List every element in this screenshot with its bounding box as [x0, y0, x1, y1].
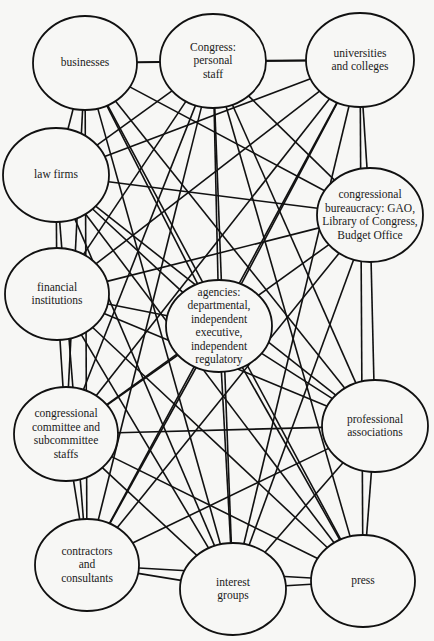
node-universities	[306, 13, 414, 107]
nodes-layer	[0, 0, 434, 641]
node-businesses	[33, 16, 137, 110]
network-diagram: businessesCongress:personalstaffuniversi…	[0, 0, 434, 641]
node-congressional_bureaucracy	[317, 168, 423, 262]
node-congress_personal_staff	[160, 14, 266, 108]
node-contractors	[35, 519, 139, 611]
node-interest_groups	[180, 543, 286, 635]
node-press	[311, 535, 415, 627]
node-financial_institutions	[5, 248, 109, 340]
node-committee_staffs	[14, 387, 118, 481]
node-agencies	[166, 280, 272, 372]
node-law_firms	[3, 128, 109, 222]
node-professional_associations	[322, 380, 428, 472]
